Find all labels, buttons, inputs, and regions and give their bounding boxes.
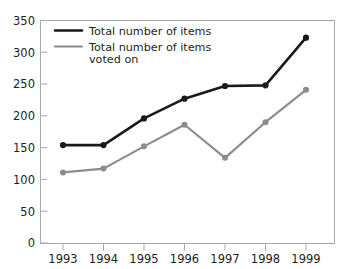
data-point (141, 143, 147, 149)
chart-figure: 350 300 250 200 150 100 50 0 1993 1994 1… (0, 0, 353, 269)
y-label-200: 200 (13, 109, 35, 123)
y-label-150: 150 (13, 141, 35, 155)
y-label-50: 50 (20, 205, 35, 219)
data-point (182, 122, 188, 128)
data-point (263, 119, 269, 125)
data-point (262, 82, 268, 88)
data-point (222, 83, 228, 89)
x-label-1994: 1994 (89, 252, 118, 266)
data-point (141, 115, 147, 121)
data-point (181, 96, 187, 102)
x-label-1998: 1998 (251, 252, 280, 266)
x-label-1996: 1996 (170, 252, 199, 266)
data-point (303, 35, 309, 41)
x-label-1995: 1995 (129, 252, 158, 266)
x-label-1999: 1999 (291, 252, 320, 266)
data-point (101, 166, 107, 172)
y-label-350: 350 (13, 14, 35, 28)
line-chart: 350 300 250 200 150 100 50 0 1993 1994 1… (0, 0, 353, 269)
data-point (60, 142, 66, 148)
data-point (303, 87, 309, 93)
x-axis-labels: 1993 1994 1995 1996 1997 1998 1999 (48, 252, 320, 266)
y-label-100: 100 (13, 173, 35, 187)
legend-label-total-items-voted-on-line2: voted on (89, 53, 138, 66)
x-label-1993: 1993 (48, 252, 77, 266)
legend-label-total-items: Total number of items (88, 25, 212, 38)
y-label-0: 0 (28, 236, 35, 250)
x-label-1997: 1997 (210, 252, 239, 266)
data-point (222, 155, 228, 161)
data-point (100, 142, 106, 148)
y-label-250: 250 (13, 77, 35, 91)
y-label-300: 300 (13, 46, 35, 60)
data-point (60, 169, 66, 175)
